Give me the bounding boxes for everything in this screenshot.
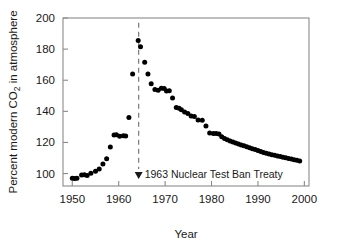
co2-scatter-chart: 100120140160180200 195019601970198019902… bbox=[0, 0, 340, 245]
data-point bbox=[123, 133, 128, 138]
data-point bbox=[104, 156, 109, 161]
x-tick-label-2000: 2000 bbox=[292, 193, 318, 205]
x-tick-label-1960: 1960 bbox=[106, 193, 132, 205]
chart-background bbox=[0, 0, 340, 245]
data-point bbox=[74, 176, 79, 181]
data-point bbox=[108, 145, 113, 150]
y-tick-label-160: 160 bbox=[36, 74, 55, 86]
data-point bbox=[130, 72, 135, 77]
data-point bbox=[138, 44, 143, 49]
data-point bbox=[126, 115, 131, 120]
x-axis-title: Year bbox=[174, 228, 197, 240]
data-point bbox=[145, 72, 150, 77]
data-point bbox=[203, 124, 208, 129]
data-point bbox=[142, 60, 147, 65]
data-point bbox=[97, 166, 102, 171]
data-point bbox=[149, 81, 154, 86]
x-tick-label-1980: 1980 bbox=[199, 193, 225, 205]
x-tick-label-1950: 1950 bbox=[59, 193, 85, 205]
x-tick-label-1970: 1970 bbox=[152, 193, 178, 205]
data-point bbox=[200, 118, 205, 123]
y-tick-label-140: 140 bbox=[36, 105, 55, 117]
y-tick-label-180: 180 bbox=[36, 43, 55, 55]
y-tick-label-120: 120 bbox=[36, 136, 55, 148]
data-point bbox=[167, 88, 172, 93]
data-point bbox=[297, 159, 302, 164]
data-point bbox=[170, 96, 175, 101]
data-point bbox=[88, 171, 93, 176]
x-tick-label-1990: 1990 bbox=[245, 193, 271, 205]
data-point bbox=[136, 38, 141, 43]
y-tick-label-100: 100 bbox=[36, 168, 55, 180]
chart-figure: 100120140160180200 195019601970198019902… bbox=[0, 0, 340, 245]
y-tick-label-200: 200 bbox=[36, 12, 55, 24]
annotation-label: 1963 Nuclear Test Ban Treaty bbox=[145, 168, 284, 180]
data-point bbox=[100, 161, 105, 166]
